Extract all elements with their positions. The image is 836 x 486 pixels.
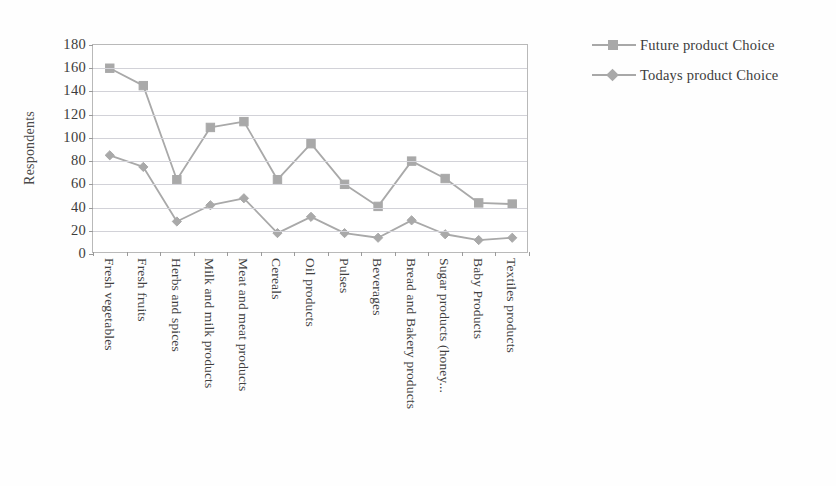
chart-container: Respondents 180160140120100806040200 Fre… xyxy=(0,0,836,486)
gridline xyxy=(93,161,527,162)
data-point-square-marker[interactable] xyxy=(307,139,315,147)
y-tick-label: 20 xyxy=(46,221,86,238)
x-tick-mark xyxy=(227,252,228,256)
y-tick-label: 120 xyxy=(46,105,86,122)
gridline xyxy=(93,68,527,69)
data-point-square-marker[interactable] xyxy=(441,174,449,182)
y-tick-mark xyxy=(89,115,93,116)
x-category-label: Fresh fruits xyxy=(134,258,150,458)
y-tick-mark xyxy=(89,68,93,69)
data-point-square-marker[interactable] xyxy=(139,81,147,89)
data-point-diamond-marker[interactable] xyxy=(139,162,148,171)
x-axis-category-labels: Fresh vegetablesFresh fruitsHerbs and sp… xyxy=(92,258,538,458)
y-tick-mark xyxy=(89,161,93,162)
data-point-diamond-marker[interactable] xyxy=(407,216,416,225)
y-axis-tick-labels: 180160140120100806040200 xyxy=(46,0,86,486)
y-tick-mark xyxy=(89,91,93,92)
x-category-label: Pulses xyxy=(336,258,352,458)
x-tick-mark xyxy=(529,252,530,256)
x-tick-mark xyxy=(93,252,94,256)
x-tick-mark xyxy=(160,252,161,256)
x-category-label: Herbs and spices xyxy=(168,258,184,458)
x-category-label: Fresh vegetables xyxy=(101,258,117,458)
gridline xyxy=(93,208,527,209)
data-point-square-marker[interactable] xyxy=(206,123,214,131)
y-tick-mark xyxy=(89,45,93,46)
data-point-square-marker[interactable] xyxy=(474,199,482,207)
legend-item-future[interactable]: Future product Choice xyxy=(592,30,832,60)
x-category-label: Bread and Bakery products xyxy=(403,258,419,458)
legend-label-future: Future product Choice xyxy=(636,37,775,54)
gridline xyxy=(93,91,527,92)
legend-marker-diamond-icon xyxy=(592,67,636,83)
x-tick-mark xyxy=(462,252,463,256)
y-axis-title-text: Respondents xyxy=(22,111,38,185)
x-category-label: Cereals xyxy=(268,258,284,458)
gridline xyxy=(93,115,527,116)
gridline xyxy=(93,138,527,139)
data-point-square-marker[interactable] xyxy=(240,117,248,125)
y-tick-mark xyxy=(89,184,93,185)
y-tick-label: 180 xyxy=(46,36,86,53)
data-point-square-marker[interactable] xyxy=(173,175,181,183)
plot-area xyxy=(92,44,528,253)
x-tick-mark xyxy=(495,252,496,256)
x-category-label: Oil products xyxy=(302,258,318,458)
x-tick-mark xyxy=(428,252,429,256)
x-tick-mark xyxy=(294,252,295,256)
y-tick-label: 40 xyxy=(46,198,86,215)
chart-legend: Future product Choice Todays product Cho… xyxy=(592,30,832,90)
x-category-label: Baby Products xyxy=(470,258,486,458)
y-tick-label: 100 xyxy=(46,128,86,145)
x-category-label: Meat and meat products xyxy=(235,258,251,458)
x-tick-mark xyxy=(328,252,329,256)
x-category-label: Milk and milk products xyxy=(201,258,217,458)
legend-item-todays[interactable]: Todays product Choice xyxy=(592,60,832,90)
data-point-diamond-marker[interactable] xyxy=(172,217,181,226)
x-tick-mark xyxy=(261,252,262,256)
gridline xyxy=(93,184,527,185)
x-category-label: Sugar products (honey... xyxy=(436,258,452,458)
data-point-diamond-marker[interactable] xyxy=(373,233,382,242)
data-point-diamond-marker[interactable] xyxy=(474,235,483,244)
legend-marker-square-icon xyxy=(592,37,636,53)
y-tick-label: 160 xyxy=(46,59,86,76)
x-category-label: Textiles products xyxy=(503,258,519,458)
y-axis-title: Respondents xyxy=(18,78,42,218)
y-tick-label: 0 xyxy=(46,245,86,262)
legend-label-todays: Todays product Choice xyxy=(636,67,779,84)
data-point-diamond-marker[interactable] xyxy=(105,151,114,160)
series-line xyxy=(110,155,512,240)
x-tick-mark xyxy=(361,252,362,256)
y-tick-mark xyxy=(89,231,93,232)
x-category-label: Beverages xyxy=(369,258,385,458)
x-tick-mark xyxy=(194,252,195,256)
x-tick-mark xyxy=(127,252,128,256)
data-point-square-marker[interactable] xyxy=(273,175,281,183)
data-point-diamond-marker[interactable] xyxy=(508,233,517,242)
x-tick-mark xyxy=(395,252,396,256)
y-tick-label: 60 xyxy=(46,175,86,192)
y-tick-label: 80 xyxy=(46,152,86,169)
y-tick-label: 140 xyxy=(46,82,86,99)
data-point-diamond-marker[interactable] xyxy=(306,212,315,221)
y-tick-mark xyxy=(89,138,93,139)
y-tick-mark xyxy=(89,208,93,209)
gridline xyxy=(93,231,527,232)
data-point-square-marker[interactable] xyxy=(374,202,382,210)
series-canvas xyxy=(93,45,529,254)
